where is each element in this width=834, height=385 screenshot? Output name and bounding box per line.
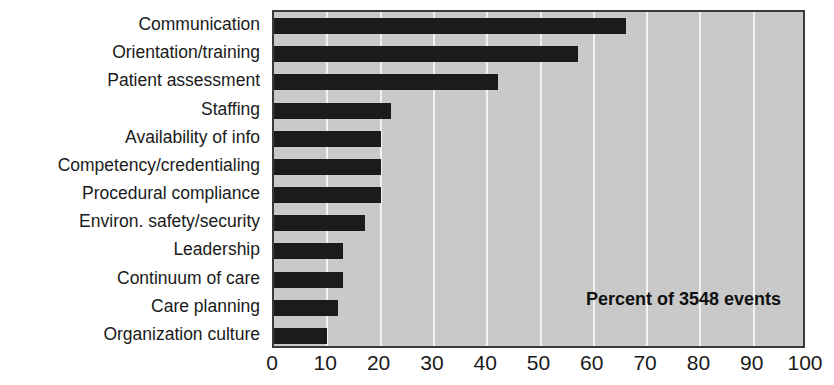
bar (274, 18, 626, 34)
y-axis-tick-label: Environ. safety/security (79, 212, 260, 230)
bar (274, 272, 343, 288)
bar (274, 74, 498, 90)
y-axis-tick-label: Patient assessment (107, 71, 260, 89)
bar (274, 328, 327, 344)
x-axis-labels: 0102030405060708090100 (272, 350, 805, 382)
bar (274, 243, 343, 259)
y-axis-tick-label: Leadership (173, 240, 260, 258)
bar (274, 215, 365, 231)
y-axis-tick-label: Care planning (151, 297, 260, 315)
x-axis-tick-label: 60 (580, 350, 603, 376)
x-axis-tick-label: 100 (787, 350, 822, 376)
y-axis-tick-label: Organization culture (103, 325, 260, 343)
x-axis-tick-label: 10 (314, 350, 337, 376)
y-axis-tick-label: Procedural compliance (82, 184, 260, 202)
x-axis-tick-label: 20 (367, 350, 390, 376)
bar (274, 46, 578, 62)
y-axis-tick-label: Communication (138, 15, 260, 33)
x-axis-tick-label: 90 (740, 350, 763, 376)
x-axis-tick-label: 50 (527, 350, 550, 376)
y-axis-tick-label: Competency/credentialing (58, 156, 260, 174)
bar (274, 103, 391, 119)
plot-area: Percent of 3548 events (272, 10, 805, 348)
bar (274, 187, 381, 203)
bar (274, 300, 338, 316)
x-axis-tick-label: 40 (474, 350, 497, 376)
x-axis-tick-label: 0 (266, 350, 278, 376)
y-axis-labels: CommunicationOrientation/trainingPatient… (0, 10, 266, 348)
bar (274, 131, 381, 147)
y-axis-tick-label: Orientation/training (112, 43, 260, 61)
bar (274, 159, 381, 175)
x-axis-tick-label: 70 (633, 350, 656, 376)
y-axis-tick-label: Availability of info (125, 128, 260, 146)
bar-chart: CommunicationOrientation/trainingPatient… (0, 0, 834, 385)
y-axis-tick-label: Staffing (201, 100, 260, 118)
y-axis-tick-label: Continuum of care (117, 269, 260, 287)
x-axis-tick-label: 80 (687, 350, 710, 376)
chart-annotation: Percent of 3548 events (586, 289, 781, 310)
x-axis-tick-label: 30 (420, 350, 443, 376)
